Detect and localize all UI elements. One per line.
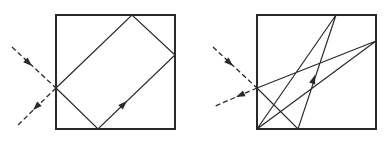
- light-ray-path: [257, 15, 376, 129]
- reflection-diagram: [0, 0, 387, 147]
- outgoing-arrow-icon: [33, 101, 42, 110]
- right-figure: [213, 15, 376, 129]
- path-direction-arrow-icon: [309, 75, 315, 85]
- outgoing-ray-dashed: [213, 88, 257, 107]
- left-figure: [12, 15, 175, 129]
- outgoing-arrow-icon: [236, 90, 246, 97]
- incoming-ray-dashed: [12, 47, 56, 88]
- light-ray-path: [56, 15, 175, 129]
- incoming-ray-dashed: [213, 47, 257, 88]
